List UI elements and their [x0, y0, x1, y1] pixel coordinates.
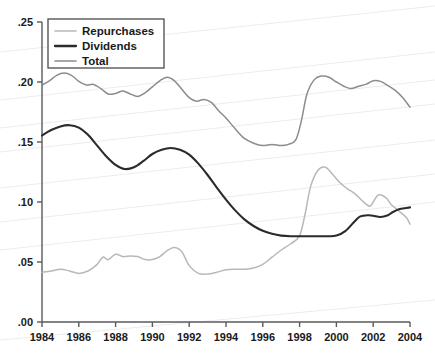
- line-chart: .00.05.10.15.20.25 198419861988199019921…: [0, 0, 435, 354]
- x-axis-tick-label: 1984: [30, 331, 55, 343]
- x-axis-ticks: [42, 322, 410, 327]
- y-axis-tick-label: .25: [18, 16, 33, 28]
- y-axis-tick-label: .10: [18, 196, 33, 208]
- x-axis-tick-label: 1990: [140, 331, 164, 343]
- x-axis-tick-label: 2000: [324, 331, 348, 343]
- x-axis-tick-label: 1988: [103, 331, 127, 343]
- y-axis-tick-label: .05: [18, 256, 33, 268]
- legend-label-dividends: Dividends: [82, 40, 137, 52]
- legend: RepurchasesDividendsTotal: [48, 19, 164, 68]
- x-axis-tick-label: 1992: [177, 331, 201, 343]
- series-line-total: [42, 73, 410, 146]
- x-axis-tick-label: 2002: [361, 331, 385, 343]
- x-axis-tick-label: 1998: [287, 331, 311, 343]
- y-axis-tick-label: .00: [18, 316, 33, 328]
- x-axis-tick-label: 2004: [398, 331, 423, 343]
- y-axis-tick-label: .15: [18, 136, 33, 148]
- x-axis-tick-label: 1986: [67, 331, 91, 343]
- y-axis-tick-labels: .00.05.10.15.20.25: [18, 16, 33, 328]
- series-line-dividends: [42, 125, 410, 236]
- legend-label-total: Total: [82, 55, 109, 67]
- x-axis-tick-label: 1996: [251, 331, 275, 343]
- x-axis-tick-labels: 1984198619881990199219941996199820002002…: [30, 331, 423, 343]
- y-axis-tick-label: .20: [18, 76, 33, 88]
- legend-label-repurchases: Repurchases: [82, 25, 154, 37]
- x-axis-tick-label: 1994: [214, 331, 239, 343]
- y-axis-ticks: [37, 22, 42, 322]
- chart-container: .00.05.10.15.20.25 198419861988199019921…: [0, 0, 435, 354]
